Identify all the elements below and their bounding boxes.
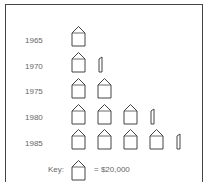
key-label: Key: (48, 165, 64, 175)
year-label-1970: 1970 (25, 62, 43, 72)
house-icon (123, 128, 138, 150)
house-icon (123, 103, 138, 125)
year-label-1975: 1975 (25, 87, 43, 97)
house-icon (149, 128, 164, 150)
house-icon (97, 77, 112, 99)
house-icon (71, 103, 86, 125)
house-icon (71, 128, 86, 150)
partial-house-icon (98, 51, 104, 73)
house-icon (97, 128, 112, 150)
partial-house-icon (150, 103, 156, 125)
year-label-1985: 1985 (25, 139, 43, 149)
house-icon (71, 25, 86, 47)
partial-house-icon (176, 128, 182, 150)
house-icon (71, 77, 86, 99)
key-value: = $20,000 (94, 165, 130, 175)
house-icon (97, 103, 112, 125)
house-icon (71, 51, 86, 73)
year-label-1965: 1965 (25, 36, 43, 46)
year-label-1980: 1980 (25, 113, 43, 123)
house-icon (71, 159, 86, 181)
